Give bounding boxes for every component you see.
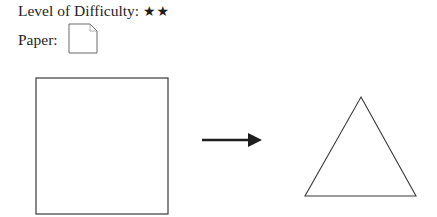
square-shape	[36, 78, 168, 214]
right-arrow-icon	[202, 133, 262, 147]
folding-diagram	[0, 0, 437, 217]
triangle-shape	[305, 97, 416, 196]
